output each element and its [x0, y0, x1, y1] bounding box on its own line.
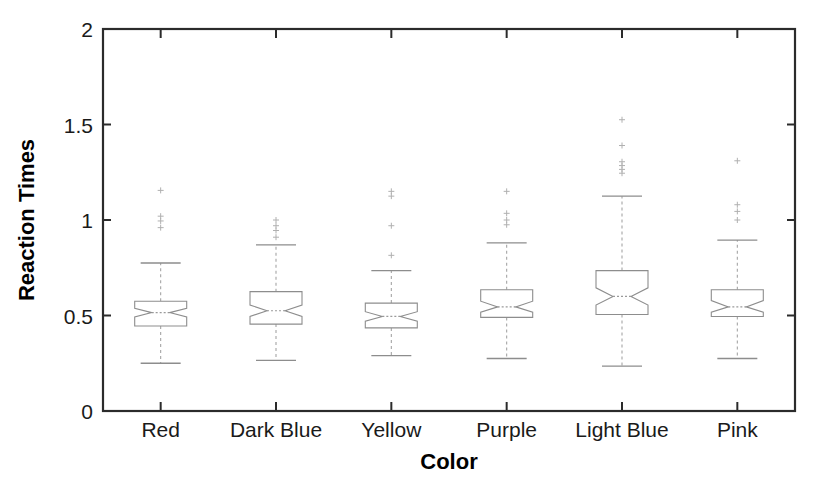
- x-tick-label-dark-blue: Dark Blue: [230, 418, 322, 441]
- box-light-blue: [596, 271, 648, 315]
- y-tick-label: 1.5: [64, 114, 93, 137]
- x-tick-label-purple: Purple: [476, 418, 537, 441]
- y-tick-label: 0.5: [64, 305, 93, 328]
- y-tick-label: 2: [81, 18, 93, 41]
- box-dark-blue: [250, 292, 302, 325]
- y-tick-label: 0: [81, 400, 93, 423]
- y-axis-title: Reaction Times: [14, 139, 39, 301]
- box-pink: [711, 290, 763, 317]
- x-tick-label-red: Red: [141, 418, 180, 441]
- x-axis-title: Color: [420, 449, 478, 474]
- boxplot-canvas: 00.511.52RedDark BlueYellowPurpleLight B…: [0, 0, 839, 497]
- plot-frame: [103, 29, 795, 411]
- x-tick-label-light-blue: Light Blue: [575, 418, 668, 441]
- box-yellow: [365, 303, 417, 328]
- box-red: [135, 301, 187, 326]
- box-purple: [481, 290, 533, 318]
- x-tick-label-yellow: Yellow: [361, 418, 422, 441]
- boxplot-figure: 00.511.52RedDark BlueYellowPurpleLight B…: [0, 0, 839, 497]
- y-tick-label: 1: [81, 209, 93, 232]
- x-tick-label-pink: Pink: [717, 418, 758, 441]
